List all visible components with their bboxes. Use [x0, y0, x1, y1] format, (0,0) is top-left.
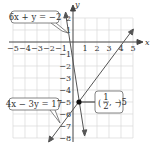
callout-eq2: 4x − 3y = 17 — [6, 98, 62, 123]
eq2-label: 4x − 3y = 17 — [6, 99, 62, 109]
y-axis-label: y — [74, 0, 80, 9]
x-tick: 2 — [94, 44, 99, 53]
arrow-down-icon — [82, 130, 86, 136]
arrow-up-icon — [64, 12, 68, 18]
x-tick: −4 — [19, 44, 31, 53]
y-tick: −2 — [59, 62, 71, 71]
paren-open: ( — [98, 98, 101, 108]
y-tick: −7 — [59, 122, 71, 131]
x-tick: −2 — [43, 44, 55, 53]
x-axis-label: x — [145, 38, 150, 47]
eq1-label: 6x + y = −2 — [9, 12, 62, 22]
point-denominator: 2 — [103, 101, 108, 111]
y-tick: −3 — [59, 74, 71, 83]
x-axis-arrow-icon — [137, 40, 143, 45]
y-tick: −4 — [59, 86, 71, 95]
x-tick: 3 — [106, 44, 111, 53]
x-tick: −5 — [7, 44, 19, 53]
y-tick: −1 — [59, 50, 71, 59]
graph: x y −5 −4 −3 −2 −1 1 2 3 4 5 2 1 −1 −2 −… — [0, 0, 152, 145]
axes — [9, 5, 143, 142]
intersection-point — [76, 99, 81, 104]
y-tick: −8 — [59, 134, 71, 143]
x-tick: 5 — [130, 44, 135, 53]
callout-point: ( 1 2 , −5 ) — [81, 91, 127, 113]
paren-close: ) — [118, 98, 121, 108]
x-tick: −3 — [31, 44, 43, 53]
x-tick: 1 — [82, 44, 87, 53]
